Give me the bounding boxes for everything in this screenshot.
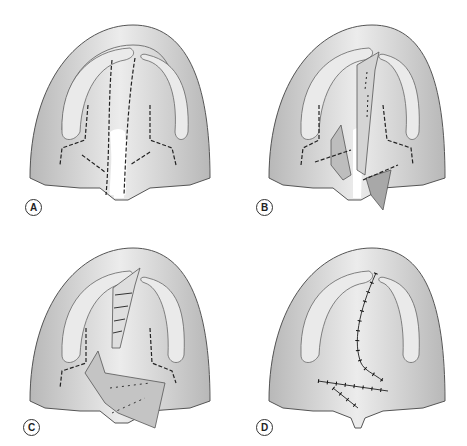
panel-d: D bbox=[233, 223, 466, 446]
panel-label-a: A bbox=[25, 199, 42, 216]
panel-label-c: C bbox=[23, 419, 40, 436]
panel-label-d: D bbox=[256, 419, 273, 436]
palate-illustration-a bbox=[0, 0, 233, 223]
palate-illustration-c bbox=[0, 223, 233, 446]
panel-c: C bbox=[0, 223, 233, 446]
panel-label-b: B bbox=[256, 199, 273, 216]
palate-illustration-d bbox=[233, 223, 467, 446]
palate-illustration-b bbox=[233, 0, 467, 223]
panel-b: B bbox=[233, 0, 466, 223]
panel-a: A bbox=[0, 0, 233, 223]
